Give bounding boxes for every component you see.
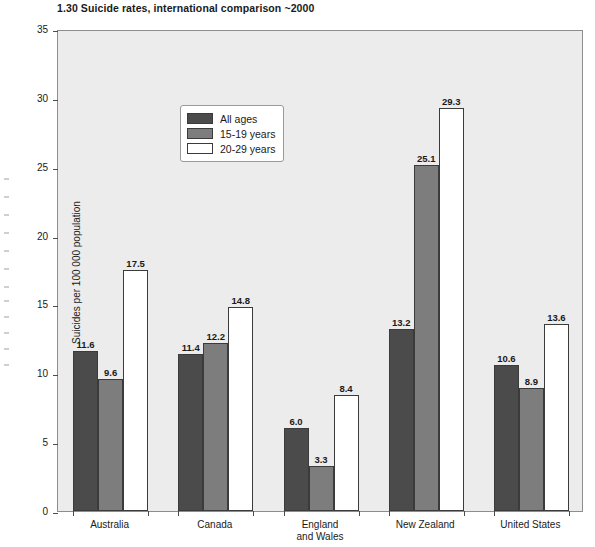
chart-legend: All ages15-19 years20-29 years: [180, 105, 284, 162]
chart-plot-area: Suicides per 100 000 population 05101520…: [57, 30, 583, 512]
y-tick-label: 5: [42, 437, 48, 448]
x-tick-mark: [464, 511, 465, 516]
x-tick-mark: [494, 511, 495, 516]
x-tick-mark: [73, 511, 74, 516]
y-tick-label: 15: [37, 299, 48, 310]
bar: 6.0: [284, 428, 309, 511]
y-tick-mark: [53, 306, 58, 307]
x-axis-category-label: New Zealand: [396, 519, 455, 531]
legend-swatch: [187, 113, 213, 124]
x-tick-mark: [253, 511, 254, 516]
scan-artifact-mark: [4, 348, 9, 350]
scan-artifact-mark: [4, 214, 9, 216]
bar: 8.9: [519, 388, 544, 511]
y-tick-label: 20: [37, 231, 48, 242]
scan-edge-artifacts: [0, 0, 14, 547]
y-tick-mark: [53, 100, 58, 101]
bar-value-label: 11.4: [182, 342, 200, 353]
bar-value-label: 25.1: [417, 153, 436, 164]
bar: 11.6: [73, 351, 98, 511]
y-tick-label: 10: [37, 368, 48, 379]
bar: 12.2: [203, 343, 228, 511]
scan-artifact-mark: [4, 268, 9, 270]
bar: 25.1: [414, 165, 439, 511]
scan-artifact-mark: [4, 286, 9, 288]
bar-value-label: 8.9: [525, 376, 538, 387]
x-axis-category-label: Australia: [90, 519, 129, 531]
bar-value-label: 3.3: [314, 454, 327, 465]
figure-title: 1.30 Suicide rates, international compar…: [57, 2, 314, 14]
legend-label: All ages: [220, 113, 257, 125]
y-tick-label: 25: [37, 162, 48, 173]
scan-artifact-mark: [4, 250, 9, 252]
x-tick-mark: [569, 511, 570, 516]
y-tick-label: 30: [37, 93, 48, 104]
bar-value-label: 9.6: [104, 367, 117, 378]
x-axis-category-label: United States: [500, 519, 560, 531]
x-axis-category-label: Canada: [197, 519, 232, 531]
legend-item: 20-29 years: [187, 141, 275, 156]
legend-swatch: [187, 143, 213, 154]
x-tick-mark: [148, 511, 149, 516]
y-tick-label: 35: [37, 24, 48, 35]
legend-item: 15-19 years: [187, 126, 275, 141]
scan-artifact-mark: [4, 332, 9, 334]
scan-artifact-mark: [4, 364, 9, 366]
legend-swatch: [187, 128, 213, 139]
bar: 9.6: [98, 379, 123, 511]
scan-artifact-mark: [4, 178, 9, 180]
bar: 29.3: [439, 108, 464, 512]
legend-label: 15-19 years: [220, 128, 275, 140]
bar: 13.2: [389, 329, 414, 511]
bar-value-label: 8.4: [339, 383, 352, 394]
bar-value-label: 11.6: [77, 339, 95, 350]
x-tick-mark: [359, 511, 360, 516]
y-tick-mark: [53, 169, 58, 170]
bar: 14.8: [228, 307, 253, 511]
bar-value-label: 13.6: [547, 312, 566, 323]
bar-value-label: 13.2: [392, 317, 411, 328]
y-tick-label: 0: [42, 506, 48, 517]
bar-value-label: 14.8: [232, 295, 251, 306]
y-tick-mark: [53, 238, 58, 239]
y-tick-mark: [53, 31, 58, 32]
legend-item: All ages: [187, 111, 275, 126]
x-tick-mark: [284, 511, 285, 516]
x-axis-category-label: England and Wales: [297, 519, 344, 543]
bar-value-label: 29.3: [442, 96, 461, 107]
y-tick-mark: [53, 513, 58, 514]
bar: 13.6: [544, 324, 569, 511]
scan-artifact-mark: [4, 232, 9, 234]
bar-value-label: 12.2: [207, 331, 226, 342]
scan-artifact-mark: [4, 316, 9, 318]
scan-artifact-mark: [4, 300, 9, 302]
bar-value-label: 17.5: [126, 258, 145, 269]
legend-label: 20-29 years: [220, 143, 275, 155]
bar: 8.4: [334, 395, 359, 511]
bar-value-label: 6.0: [289, 416, 302, 427]
bar: 11.4: [178, 354, 203, 511]
bar: 10.6: [494, 365, 519, 511]
scan-artifact-mark: [4, 196, 9, 198]
y-tick-mark: [53, 375, 58, 376]
bar-value-label: 10.6: [497, 353, 516, 364]
y-tick-mark: [53, 444, 58, 445]
bar: 17.5: [123, 270, 148, 511]
x-tick-mark: [389, 511, 390, 516]
x-tick-mark: [178, 511, 179, 516]
bar: 3.3: [309, 466, 334, 511]
